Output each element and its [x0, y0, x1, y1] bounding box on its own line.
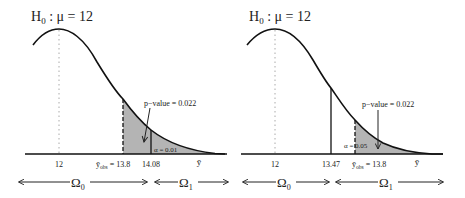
alpha-label: α = 0.01 — [154, 146, 178, 154]
alpha-label: α = 0.05 — [344, 142, 368, 150]
panel-right: H0 : μ = 12 p−value = 0.022 α = 0.05 12 … — [241, 9, 443, 192]
omega0-label: Ω0 — [277, 175, 291, 192]
pvalue-label: p−value = 0.022 — [362, 100, 414, 109]
ybar-axis-label: ȳ — [197, 157, 202, 167]
critical-tick-label: 13.47 — [322, 160, 340, 169]
mean-tick-label: 12 — [271, 160, 279, 169]
pvalue-label: p−value = 0.022 — [144, 99, 196, 108]
mean-tick-label: 12 — [55, 160, 63, 169]
hypothesis-test-diagram: H0 : μ = 12 p−value = 0.022 α = 0.01 12 … — [0, 0, 465, 198]
observed-tick-label: ȳobs = 13.8 — [352, 160, 386, 170]
ybar-axis-label: ȳ — [415, 157, 420, 167]
panel-left: H0 : μ = 12 p−value = 0.022 α = 0.01 12 … — [19, 9, 228, 192]
omega1-label: Ω1 — [179, 175, 193, 192]
hypothesis-title: H0 : μ = 12 — [249, 9, 311, 26]
omega1-label: Ω1 — [379, 175, 393, 192]
critical-tick-label: 14.08 — [142, 160, 160, 169]
diagram-canvas: H0 : μ = 12 p−value = 0.022 α = 0.01 12 … — [0, 0, 465, 198]
hypothesis-title: H0 : μ = 12 — [31, 9, 93, 26]
normal-curve — [247, 29, 443, 154]
observed-tick-label: ȳobs = 13.8 — [96, 160, 130, 170]
omega0-label: Ω0 — [71, 175, 85, 192]
